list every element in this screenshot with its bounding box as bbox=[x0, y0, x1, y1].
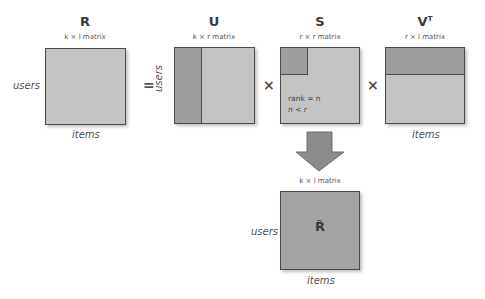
matrix-s-dims: r × r matrix bbox=[280, 33, 360, 41]
matrix-u-dims: k × r matrix bbox=[174, 33, 254, 41]
matrix-s: rank = n n < r bbox=[280, 47, 360, 124]
matrix-vt bbox=[385, 47, 465, 124]
matrix-u-title: U bbox=[174, 14, 254, 29]
matrix-r-dims: k × l matrix bbox=[45, 33, 125, 41]
matrix-s-rank-note: rank = n bbox=[288, 94, 321, 103]
matrix-s-rank-condition: n < r bbox=[288, 105, 307, 114]
matrix-r-hat-dims: k × l matrix bbox=[280, 177, 360, 185]
times-sign-2: × bbox=[367, 77, 379, 93]
matrix-u bbox=[174, 47, 255, 124]
times-sign-1: × bbox=[263, 77, 275, 93]
matrix-r-col-label: items bbox=[72, 129, 100, 140]
matrix-r-title: R bbox=[45, 14, 125, 29]
matrix-r-hat-row-label: users bbox=[251, 226, 278, 237]
matrix-r-hat-title: R̂ bbox=[281, 219, 359, 234]
matrix-vt-col-label: items bbox=[412, 129, 440, 140]
down-arrow-icon bbox=[294, 131, 346, 173]
matrix-vt-rank-rows bbox=[386, 48, 464, 75]
matrix-r bbox=[45, 48, 126, 125]
matrix-u-row-label: users bbox=[153, 65, 164, 92]
matrix-vt-title: VT bbox=[385, 14, 465, 29]
matrix-vt-dims: r × l matrix bbox=[385, 33, 465, 41]
matrix-u-rank-columns bbox=[175, 48, 202, 123]
matrix-s-rank-block bbox=[281, 48, 308, 75]
matrix-r-row-label: users bbox=[13, 80, 40, 91]
matrix-r-hat-col-label: items bbox=[307, 275, 335, 286]
matrix-s-title: S bbox=[280, 14, 360, 29]
matrix-r-hat: R̂ bbox=[280, 191, 360, 270]
